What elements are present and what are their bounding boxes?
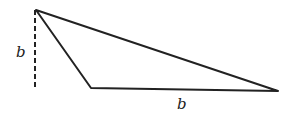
triangle-diagram: b b (0, 0, 295, 117)
base-label: b (177, 95, 187, 113)
obtuse-triangle (36, 10, 278, 91)
height-label: b (16, 43, 26, 61)
